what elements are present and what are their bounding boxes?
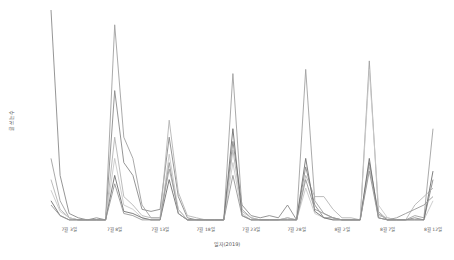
y-axis-label: 글 쓰는수 — [4, 100, 18, 140]
series-line-2 — [51, 25, 433, 220]
line-chart — [0, 0, 454, 260]
x-tick-label: 7월 3일 — [62, 226, 77, 232]
y-axis-label-text: 글 쓰는수 — [8, 109, 15, 131]
x-tick-label: 7월 28일 — [288, 226, 306, 232]
series-layer — [51, 10, 433, 220]
x-axis-label: 일자(2019) — [0, 240, 454, 247]
x-tick-label: 8월 7일 — [380, 226, 395, 232]
x-tick-label: 7월 23일 — [242, 226, 260, 232]
x-tick-label: 8월 12일 — [424, 226, 442, 232]
x-tick-label: 7월 13일 — [151, 226, 169, 232]
x-tick-label: 8월 2일 — [334, 226, 349, 232]
x-tick-label: 7월 8일 — [107, 226, 122, 232]
series-line-1 — [51, 10, 433, 220]
x-tick-label: 7월 18일 — [197, 226, 215, 232]
